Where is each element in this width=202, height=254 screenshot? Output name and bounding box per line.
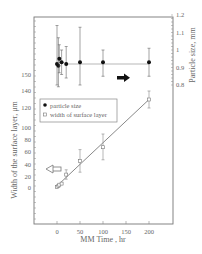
right-axis-label: Particle size, mm [188, 27, 197, 83]
x-tick-label: 200 [144, 228, 154, 235]
left-tick-label: 40 [25, 161, 32, 168]
data-point-surface-layer [102, 146, 105, 149]
right-tick-label: 1.1 [176, 29, 184, 36]
x-axis-label: MM Time , hr [80, 235, 126, 244]
x-tick-label: 150 [121, 228, 131, 235]
left-arrow-icon [46, 165, 61, 173]
fit-lines [61, 64, 149, 183]
x-tick-label: 50 [77, 228, 84, 235]
data-point-particle-size [78, 60, 82, 64]
right-tick-label: 1.2 [176, 11, 184, 18]
legend-label-particle-size: particle size [50, 102, 81, 109]
right-axis-tick-labels: 0.80.911.11.2 [176, 11, 184, 88]
right-tick-label: 0.9 [176, 64, 184, 71]
data-point-surface-layer [65, 173, 68, 176]
data-point-particle-size [60, 60, 64, 64]
left-tick-label: 120 [21, 104, 31, 111]
data-point-particle-size [57, 57, 61, 61]
data-point-particle-size [147, 60, 151, 64]
left-tick-label: 150 [21, 71, 31, 78]
data-point-surface-layer [79, 160, 82, 163]
data-point-particle-size [101, 60, 105, 64]
right-tick-label: 1 [176, 46, 179, 53]
data-point-surface-layer [148, 98, 151, 101]
left-tick-label: 0 [28, 184, 31, 191]
x-axis-tick-labels: 050100150200 [55, 228, 154, 235]
right-tick-label: 0.8 [176, 81, 184, 88]
left-axis-tick-labels: 020406080100120140150 [21, 71, 31, 191]
data-point-particle-size [64, 62, 68, 66]
left-tick-label: 80 [25, 136, 32, 143]
x-tick-label: 0 [55, 228, 58, 235]
legend-filled-circle-icon [43, 103, 47, 107]
data-point-surface-layer [60, 182, 63, 185]
data-point-particle-size [56, 64, 60, 68]
left-tick-label: 20 [25, 173, 32, 180]
left-axis-label: Width of the surface layer, μm [10, 101, 19, 199]
legend-label-surface-layer: width of surface layer [50, 111, 108, 118]
legend-open-square-icon [44, 113, 47, 116]
chart: 050100150200 020406080100120140150 0.80.… [0, 0, 202, 254]
x-tick-label: 100 [98, 228, 108, 235]
left-tick-label: 60 [25, 148, 32, 155]
legend: particle size width of surface layer [40, 99, 117, 122]
left-tick-label: 100 [21, 124, 31, 131]
right-arrow-icon [117, 74, 130, 83]
left-tick-label: 140 [21, 87, 31, 94]
